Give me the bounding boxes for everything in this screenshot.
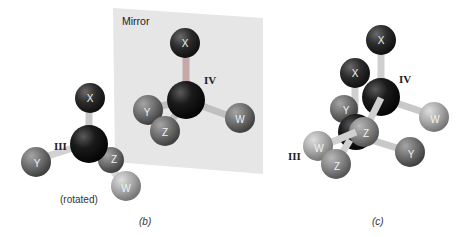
atom-z-label: Z [162,127,168,138]
label-iii: III [54,140,67,152]
atom-w-label: W [235,114,245,125]
caption-c: (c) [372,216,384,227]
stereochemistry-figure: Mirror X Y W Z IV X Z Y W III (rotated) … [0,0,476,237]
caption-b: (b) [139,216,151,227]
center-carbon [167,81,205,119]
label-iv-c: IV [399,73,411,85]
mirror-label: Mirror [122,15,150,27]
atom-y-iii-label: Y [343,105,350,116]
atom-z-iv-label: Z [363,128,369,139]
atom-x-iv-label: X [378,35,385,46]
atom-y2-iii-label: Y [408,149,415,160]
label-iv: IV [204,74,216,86]
atom-y-label: Y [34,158,41,169]
atom-w-iv-label: W [430,114,440,125]
atom-w-label: W [121,183,131,194]
atom-z-iii-label: Z [334,161,340,172]
atom-x-label: X [182,38,189,49]
atom-z-label: Z [111,154,117,165]
atom-w-iii-label: W [314,143,324,154]
atom-x-label: X [87,93,94,104]
rotated-note: (rotated) [60,194,98,205]
label-iii-c: III [288,150,301,162]
center-carbon-iv [362,78,400,116]
atom-x-iii-label: X [352,68,359,79]
superimposed-molecules-c: X X Y W Y Z W Z IV III [288,25,449,179]
center-carbon [70,125,108,163]
atom-y-label: Y [144,107,151,118]
